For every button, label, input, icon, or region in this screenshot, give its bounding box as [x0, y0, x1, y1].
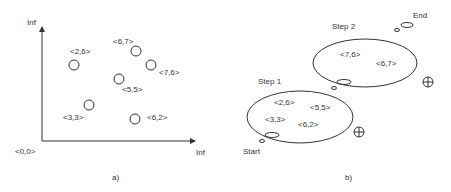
- thought-bubble-small: [260, 140, 265, 143]
- point-label: <2,6>: [70, 47, 91, 56]
- step1-item: <5,5>: [310, 103, 331, 112]
- crossed-circle-icon: [354, 127, 364, 137]
- point-label: <6,2>: [147, 113, 168, 122]
- point-6-2: <6,2>: [130, 113, 168, 124]
- step2-item: <6,7>: [376, 59, 397, 68]
- point-5-5: <5,5>: [114, 74, 143, 94]
- panel-a: Inf Inf <0,0> <2,6> <6,7> <7,6> <5,5> <3…: [15, 18, 206, 182]
- step1-item: <2,6>: [274, 98, 295, 107]
- x-axis-label: Inf: [196, 148, 206, 157]
- crossed-circle-icon: [423, 77, 433, 87]
- point-label: <6,7>: [113, 37, 134, 46]
- origin-label: <0,0>: [15, 147, 36, 156]
- step1-item: <6,2>: [298, 120, 319, 129]
- point-6-7: <6,7>: [113, 37, 141, 56]
- end-label: End: [413, 11, 427, 20]
- diagram-canvas: Inf Inf <0,0> <2,6> <6,7> <7,6> <5,5> <3…: [0, 0, 451, 192]
- point-label: <5,5>: [122, 85, 143, 94]
- thought-bubble-small: [395, 29, 400, 32]
- point-label: <7,6>: [159, 68, 180, 77]
- thought-bubble-large: [265, 133, 279, 138]
- thought-bubble-large: [401, 23, 413, 28]
- point-7-6: <7,6>: [146, 60, 180, 77]
- point-3-3: <3,3>: [63, 100, 94, 122]
- panel-b-caption: b): [345, 173, 352, 182]
- start-label: Start: [243, 147, 261, 156]
- step1-label: Step 1: [258, 77, 282, 86]
- point-label: <3,3>: [63, 113, 84, 122]
- step1-ellipse: [247, 91, 353, 143]
- thought-bubble-large: [337, 80, 351, 85]
- step2-ellipse: [313, 39, 417, 87]
- point-2-6: <2,6>: [69, 47, 91, 70]
- step1-item: <3,3>: [265, 115, 286, 124]
- thought-bubble-small: [332, 87, 337, 90]
- panel-b: Step 1 <2,6> <5,5> <3,3> <6,2> Start Ste…: [243, 11, 433, 182]
- y-axis-label: Inf: [27, 18, 37, 27]
- step2-label: Step 2: [332, 22, 356, 31]
- panel-a-caption: a): [112, 173, 119, 182]
- step2-item: <7,6>: [340, 50, 361, 59]
